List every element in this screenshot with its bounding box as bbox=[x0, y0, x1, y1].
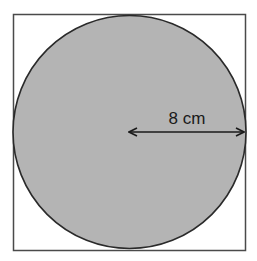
diagram-canvas: 8 cm bbox=[0, 0, 257, 261]
radius-label: 8 cm bbox=[169, 109, 206, 128]
